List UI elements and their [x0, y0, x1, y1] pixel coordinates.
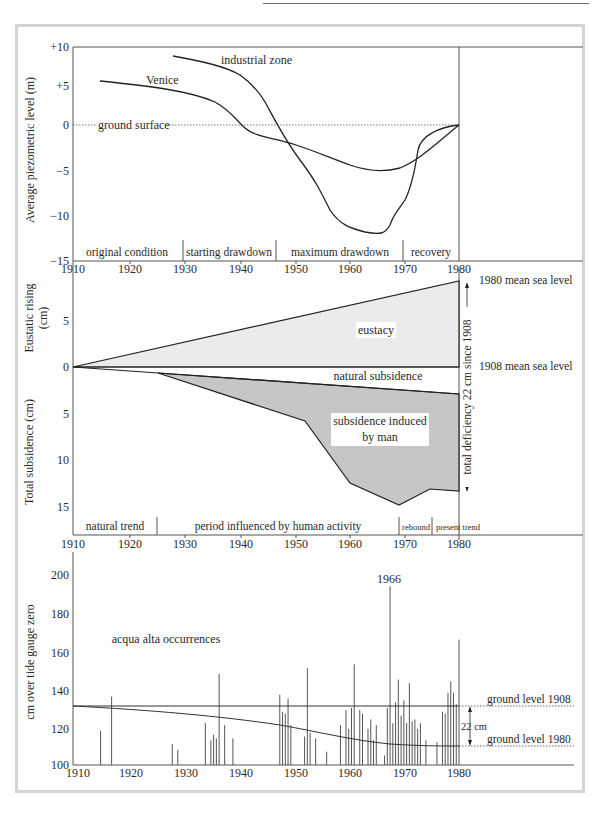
x-tick: 1920 — [118, 262, 142, 276]
x-tick: 1970 — [393, 766, 417, 780]
x-tick: 1930 — [173, 537, 197, 551]
y-tick: 5 — [63, 407, 69, 421]
x-tick: 1950 — [284, 537, 308, 551]
label-venice: Venice — [146, 73, 179, 87]
label-ground-surface: ground surface — [98, 118, 170, 132]
x-tick: 1910 — [61, 537, 85, 551]
x-tick: 1940 — [229, 262, 253, 276]
phase-label: rebound — [402, 522, 431, 532]
phase-label: recovery — [411, 246, 451, 259]
x-tick: 1980 — [447, 537, 471, 551]
x-tick: 1910 — [66, 766, 90, 780]
label-acqua-alta: acqua alta occurrences — [112, 632, 221, 646]
acqua-alta-bars — [101, 586, 459, 765]
y-tick: 160 — [51, 646, 69, 660]
y-tick: +10 — [50, 40, 69, 54]
y-tick: 5 — [63, 314, 69, 328]
x-tick: 1970 — [393, 537, 417, 551]
y-tick: −5 — [56, 164, 69, 178]
label-natural-subsidence: natural subsidence — [334, 369, 423, 383]
label-22cm: 22 cm — [461, 721, 487, 732]
label-industrial-zone: industrial zone — [221, 53, 292, 67]
y-axis-label-top: Eustatic rising — [22, 284, 36, 353]
y-axis-label: cm over tide gauge zero — [23, 604, 37, 719]
label-ground-level-1980: ground level 1980 — [487, 733, 571, 746]
eustacy-area — [73, 281, 459, 367]
label-1980-msl: 1980 mean sea level — [479, 274, 573, 286]
y-axis-label: Average piezometric level (m) — [23, 77, 37, 223]
label-ground-level-1908: ground level 1908 — [487, 693, 571, 706]
phase-label: present trend — [436, 522, 481, 532]
x-tick: 1980 — [447, 766, 471, 780]
y-tick: 0 — [63, 118, 69, 132]
phase-label: maximum drawdown — [291, 246, 389, 258]
y-tick: +5 — [56, 79, 69, 93]
x-tick: 1920 — [119, 766, 143, 780]
x-tick: 1950 — [284, 262, 308, 276]
y-tick: 15 — [57, 500, 69, 514]
y-tick: 120 — [51, 722, 69, 736]
x-tick: 1940 — [229, 766, 253, 780]
x-tick: 1950 — [284, 766, 308, 780]
y-tick: 200 — [51, 568, 69, 582]
x-tick: 1960 — [338, 262, 362, 276]
x-tick: 1940 — [229, 537, 253, 551]
x-tick: 1970 — [393, 262, 417, 276]
phase-label: original condition — [86, 246, 168, 259]
panel-acqua-alta: 22 cm ground level 1908 ground level 198… — [23, 552, 574, 780]
label-total-deficiency: total deficiency 22 cm since 1908 — [461, 319, 474, 474]
panel-subsidence: 5 0 5 10 15 Eustatic rising (cm) Total s… — [22, 268, 583, 551]
x-tick: 1930 — [174, 766, 198, 780]
figure-canvas: +10 +5 0 −5 −10 −15 Average piezometric … — [0, 0, 605, 813]
x-tick: 1920 — [118, 537, 142, 551]
x-tick: 1960 — [338, 766, 362, 780]
y-axis-label-top-unit: (cm) — [36, 307, 50, 330]
panel-piezometric: +10 +5 0 −5 −10 −15 Average piezometric … — [23, 40, 583, 276]
phase-label: natural trend — [86, 520, 145, 532]
y-axis-label-bottom: Total subsidence (cm) — [22, 399, 36, 505]
x-tick: 1960 — [338, 537, 362, 551]
y-tick: 0 — [63, 360, 69, 374]
x-tick: 1930 — [173, 262, 197, 276]
y-tick: −10 — [50, 209, 69, 223]
label-1966: 1966 — [377, 572, 401, 586]
label-man-induced-2: by man — [362, 430, 398, 444]
label-man-induced-1: subsidence induced — [333, 414, 427, 428]
phase-label: period influenced by human activity — [195, 520, 362, 533]
label-eustacy: eustacy — [358, 323, 394, 337]
phase-label: starting drawdown — [186, 246, 272, 259]
industrial-zone-curve — [173, 56, 459, 234]
y-tick: 10 — [57, 453, 69, 467]
label-1908-msl: 1908 mean sea level — [479, 360, 573, 372]
y-tick: 180 — [51, 607, 69, 621]
y-tick: 140 — [51, 684, 69, 698]
